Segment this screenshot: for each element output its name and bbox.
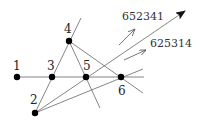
point-label-4: 4 — [64, 22, 72, 36]
point-label-5: 5 — [83, 59, 91, 73]
point-4 — [66, 38, 72, 44]
line-4-6 — [69, 41, 143, 93]
permutation-label-652341: 652341 — [122, 10, 164, 23]
point-5 — [83, 74, 89, 80]
diagram-canvas: 123456652341625314 — [0, 0, 197, 127]
point-line-arrangement-diagram: 123456652341625314 — [0, 0, 197, 127]
point-label-6: 6 — [118, 84, 126, 98]
point-1 — [14, 74, 20, 80]
point-2 — [32, 110, 38, 116]
main-arrow-line — [35, 11, 185, 113]
point-label-3: 3 — [47, 59, 55, 73]
arrow-652341-icon — [119, 29, 135, 45]
arrows-group — [119, 29, 146, 60]
point-label-1: 1 — [13, 59, 21, 73]
line-2-3-4 — [35, 18, 81, 113]
lines-group — [17, 11, 185, 113]
point-label-2: 2 — [30, 93, 38, 107]
permutation-label-625314: 625314 — [150, 37, 192, 50]
arrow-625314-icon — [124, 50, 146, 60]
point-6 — [118, 74, 124, 80]
point-3 — [49, 74, 55, 80]
